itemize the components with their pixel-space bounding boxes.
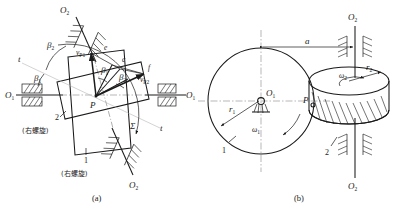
label-tangent-right: t [160,123,163,133]
label-omega2: ω2 [339,71,347,81]
label-gear2-hand: (右螺旋) [22,126,49,135]
label-tangent-left: t [18,54,21,64]
label-axis-o2-bottom-b: O2 [348,181,358,192]
leader-gear1-b [229,136,236,142]
velocity-construction [91,53,144,98]
label-omega1: ω1 [252,125,260,135]
gear-2-cylinder [309,67,389,124]
caption-a: (a) [92,193,102,203]
beta1-arc-center [98,78,107,82]
panel-a: O1 O1 O2 O2 t t β1 β2 β1 β2 vP1 vP2 e c … [5,5,196,203]
label-gear2-number: 2 [55,113,59,122]
label-pitch-point-b: P [302,95,309,105]
label-gear1-hand: (右螺旋) [61,169,88,178]
caption-b: (b) [294,193,304,203]
label-axis-o2-bottom: O2 [129,180,139,191]
label-pitch-point-p: P [89,100,96,110]
pitch-point-dot [95,95,98,98]
omega1-arrow [283,114,300,135]
label-radius1: r1 [229,104,236,115]
label-vp2: vP2 [140,75,149,85]
panel-b: O1 O2 O2 r1 r2 ω1 ω2 a P 1 2 (b) [198,12,389,203]
label-beta1-center: β1 [100,65,108,76]
label-center-distance: a [305,36,310,46]
gear-1-body [68,50,131,155]
figure-root: O1 O1 O2 O2 t t β1 β2 β1 β2 vP1 vP2 e c … [0,0,402,207]
label-axis-o1-b: O1 [266,88,276,99]
label-point-f: f [148,63,151,72]
label-sigma: Σ [129,121,136,131]
label-axis-o2-top-b: O2 [348,12,358,23]
label-radius2: r2 [366,62,373,73]
label-vp1: vP1 [76,48,85,58]
pitch-point-b [311,103,315,107]
label-gear2-number-b: 2 [325,148,329,157]
label-axis-o1-right: O1 [186,90,196,101]
label-axis-o1-left: O1 [5,90,15,101]
label-point-e: e [104,43,108,52]
label-gear1-number: 1 [84,156,88,165]
radius1-arrow [221,101,259,126]
label-beta1-left: β1 [33,73,41,84]
poly-edge-3 [120,69,144,74]
leader-gear2-b [331,137,337,146]
engineering-diagram: O1 O1 O2 O2 t t β1 β2 β1 β2 vP1 vP2 e c … [0,0,402,207]
label-beta2-left: β2 [46,40,54,51]
label-axis-o2-top: O2 [60,5,70,16]
label-gear1-number-b: 1 [222,146,226,155]
